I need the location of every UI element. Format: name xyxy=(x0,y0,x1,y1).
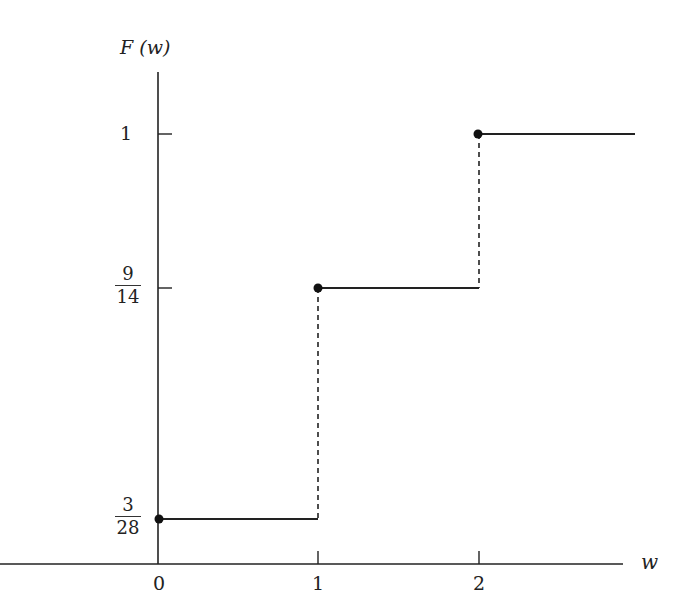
y-axis-label-arg: (w) xyxy=(139,36,170,58)
y-tick-label-3-28: 3 28 xyxy=(115,495,141,538)
y-tick-label-9-14: 9 14 xyxy=(115,264,141,307)
x-tick-label-2: 2 xyxy=(473,572,485,594)
y-axis-label-main: F xyxy=(120,36,133,58)
closed-point-0 xyxy=(155,515,164,524)
y-tick-label-1: 1 xyxy=(120,122,132,144)
x-axis-label: w xyxy=(641,550,658,574)
step-chart xyxy=(0,0,682,615)
fraction-numerator: 3 xyxy=(115,495,141,515)
x-tick-label-0: 0 xyxy=(153,572,165,594)
y-axis-label: F (w) xyxy=(120,36,170,58)
fraction-denominator: 14 xyxy=(115,287,141,307)
fraction-numerator: 9 xyxy=(115,264,141,284)
fraction-denominator: 28 xyxy=(115,518,141,538)
closed-point-1 xyxy=(314,284,323,293)
closed-point-2 xyxy=(474,130,483,139)
x-tick-label-1: 1 xyxy=(312,572,324,594)
